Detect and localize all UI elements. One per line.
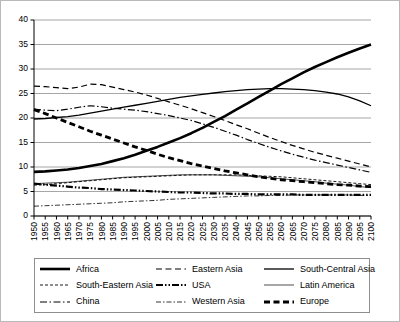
x-tick-label: 1975 xyxy=(85,222,95,241)
x-tick-label: 2080 xyxy=(321,222,331,241)
x-tick-label: 2060 xyxy=(276,222,286,241)
chart-figure: 0510152025303540 19501955196019651970197… xyxy=(0,0,400,322)
legend-label: Western Asia xyxy=(192,297,245,306)
legend-swatch-icon xyxy=(155,279,187,291)
x-tick-label: 2070 xyxy=(299,222,309,241)
legend-label: USA xyxy=(192,281,211,290)
legend-swatch-icon xyxy=(155,296,187,308)
legend-swatch-icon xyxy=(263,279,295,291)
x-tick-label: 1990 xyxy=(119,222,129,241)
legend-item[interactable]: South-Eastern Asia xyxy=(39,277,155,293)
y-tick-label: 15 xyxy=(19,137,29,147)
series-line-western-asia xyxy=(34,195,371,206)
plot-area: 0510152025303540 19501955196019651970197… xyxy=(1,1,400,251)
series-line-africa xyxy=(34,45,371,172)
x-tick-label: 2090 xyxy=(344,222,354,241)
x-tick-label: 2045 xyxy=(243,222,253,241)
gridlines xyxy=(34,20,371,216)
legend-label: Europe xyxy=(300,297,329,306)
x-tick-label: 2075 xyxy=(310,222,320,241)
legend-label: Eastern Asia xyxy=(192,265,243,274)
y-tick-label: 40 xyxy=(19,14,29,24)
x-tick-label: 2065 xyxy=(288,222,298,241)
x-tick-label: 2015 xyxy=(175,222,185,241)
x-tick-label: 1985 xyxy=(108,222,118,241)
legend-item[interactable]: China xyxy=(39,294,155,310)
series-line-china xyxy=(34,106,371,173)
x-tick-label: 2035 xyxy=(220,222,230,241)
y-axis: 0510152025303540 xyxy=(19,14,34,220)
x-tick-label: 2100 xyxy=(366,222,376,241)
legend-swatch-icon xyxy=(155,263,187,275)
y-tick-label: 25 xyxy=(19,88,29,98)
x-tick-label: 2000 xyxy=(142,222,152,241)
x-tick-label: 1980 xyxy=(97,222,107,241)
legend-label: China xyxy=(76,297,100,306)
line-chart-svg: 0510152025303540 19501955196019651970197… xyxy=(1,1,400,251)
x-tick-label: 2095 xyxy=(355,222,365,241)
y-tick-label: 10 xyxy=(19,161,29,171)
x-tick-label: 1955 xyxy=(40,222,50,241)
legend-item[interactable]: Latin America xyxy=(263,277,375,293)
legend-item[interactable]: Africa xyxy=(39,261,155,277)
series-line-usa xyxy=(34,184,371,195)
legend-item[interactable]: USA xyxy=(155,277,263,293)
legend-label: Latin America xyxy=(300,281,355,290)
x-tick-label: 2005 xyxy=(153,222,163,241)
legend-item[interactable]: Europe xyxy=(263,294,375,310)
y-tick-label: 0 xyxy=(23,210,28,220)
legend-swatch-icon xyxy=(263,263,295,275)
y-tick-label: 20 xyxy=(19,112,29,122)
x-tick-label: 2050 xyxy=(254,222,264,241)
legend-item[interactable]: South-Central Asia xyxy=(263,261,375,277)
legend-swatch-icon xyxy=(39,296,71,308)
x-tick-label: 1995 xyxy=(130,222,140,241)
x-tick-label: 2020 xyxy=(186,222,196,241)
y-tick-label: 5 xyxy=(23,186,28,196)
y-tick-label: 35 xyxy=(19,39,29,49)
x-tick-label: 1970 xyxy=(74,222,84,241)
x-tick-label: 2040 xyxy=(231,222,241,241)
legend-item[interactable]: Eastern Asia xyxy=(155,261,263,277)
x-tick-label: 1965 xyxy=(63,222,73,241)
x-tick-label: 1950 xyxy=(29,222,39,241)
x-tick-label: 2055 xyxy=(265,222,275,241)
x-axis: 1950195519601965197019751980198519901995… xyxy=(29,216,376,241)
legend-swatch-icon xyxy=(263,296,295,308)
x-tick-label: 2010 xyxy=(164,222,174,241)
x-tick-label: 2085 xyxy=(333,222,343,241)
y-tick-label: 30 xyxy=(19,63,29,73)
legend-item[interactable]: Western Asia xyxy=(155,294,263,310)
legend-swatch-icon xyxy=(39,279,71,291)
legend-label: Africa xyxy=(76,265,99,274)
x-tick-label: 1960 xyxy=(52,222,62,241)
legend-swatch-icon xyxy=(39,263,71,275)
x-tick-label: 2030 xyxy=(209,222,219,241)
series-line-eastern-asia xyxy=(34,84,371,167)
x-tick-label: 2025 xyxy=(198,222,208,241)
chart-legend: AfricaEastern AsiaSouth-Central AsiaSout… xyxy=(34,258,370,313)
legend-label: South-Central Asia xyxy=(300,265,375,274)
legend-label: South-Eastern Asia xyxy=(76,281,153,290)
